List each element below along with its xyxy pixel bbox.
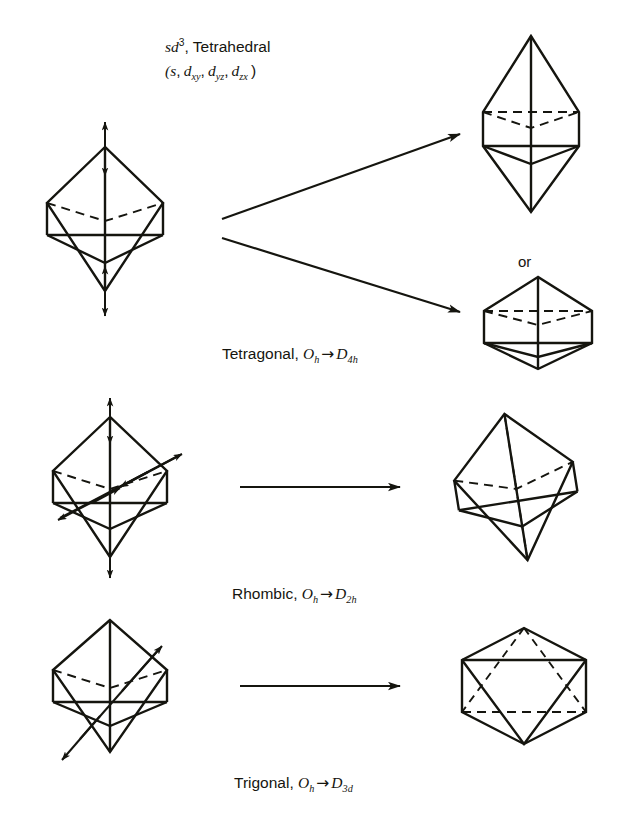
or-label: or xyxy=(518,253,531,270)
orbital-sub-1: yz xyxy=(216,71,225,82)
arrow-glyph-rhombic: → xyxy=(318,585,335,603)
title-line-1: sd3, Tetrahedral xyxy=(165,36,270,59)
group-from-tetragonal: O xyxy=(303,345,314,362)
group-from-trigonal: O xyxy=(298,774,309,791)
group-to-sub-rhombic: 2h xyxy=(346,594,356,605)
caption-rhombic: Rhombic, Oh→D2h xyxy=(232,585,357,605)
caption-tetragonal-text: Tetragonal, xyxy=(222,345,299,362)
orbital-sub-0: xy xyxy=(191,71,200,82)
title-line-1-suffix: , Tetrahedral xyxy=(184,38,270,55)
title-line-2: (s, dxy, dyz, dzx ) xyxy=(165,60,270,85)
figure-background xyxy=(0,0,629,835)
group-from-rhombic: O xyxy=(302,585,313,602)
group-to-sub-trigonal: 3d xyxy=(343,783,353,794)
group-to-tetragonal: D xyxy=(336,345,347,362)
caption-rhombic-text: Rhombic, xyxy=(232,585,297,602)
arrow-glyph-tetragonal: → xyxy=(319,345,336,363)
group-to-sub-tetragonal: 4h xyxy=(348,354,358,365)
group-to-rhombic: D xyxy=(335,585,346,602)
orbital-sub-2: zx xyxy=(239,71,248,82)
arrow-glyph-trigonal: → xyxy=(314,774,331,792)
title-orbital-symbol: sd xyxy=(165,38,179,55)
caption-tetragonal: Tetragonal, Oh→D4h xyxy=(222,345,358,365)
caption-trigonal-text: Trigonal, xyxy=(234,774,294,791)
figure-title: sd3, Tetrahedral (s, dxy, dyz, dzx ) xyxy=(165,36,270,85)
caption-trigonal: Trigonal, Oh→D3d xyxy=(234,774,353,794)
octahedral-distortion-figure xyxy=(0,0,629,835)
group-to-trigonal: D xyxy=(331,774,342,791)
